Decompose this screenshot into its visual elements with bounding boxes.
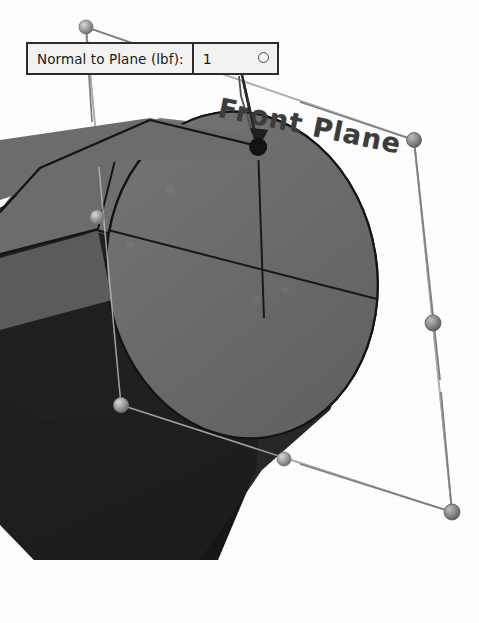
plane-handle-mid-right[interactable] [425,315,441,331]
circle-handle-icon[interactable] [258,52,269,63]
cad-viewport[interactable]: Front Plane Normal to Plane (lbf): 1 [0,0,479,623]
plane-handle-mid-left[interactable] [90,210,104,224]
plane-handle-mid-bottom[interactable] [277,452,291,466]
callout-label: Normal to Plane (lbf): [28,44,192,73]
callout-handle-cell[interactable] [251,44,277,73]
plane-handle-bottom-right[interactable] [444,504,460,520]
scene-graphics [0,0,479,623]
plane-handle-bottom-left[interactable] [114,398,129,413]
normal-to-plane-callout[interactable]: Normal to Plane (lbf): 1 [26,42,279,75]
plane-handle-top-right[interactable] [407,133,422,148]
plane-handle-top-left[interactable] [79,20,93,34]
callout-value-field[interactable]: 1 [194,44,251,73]
